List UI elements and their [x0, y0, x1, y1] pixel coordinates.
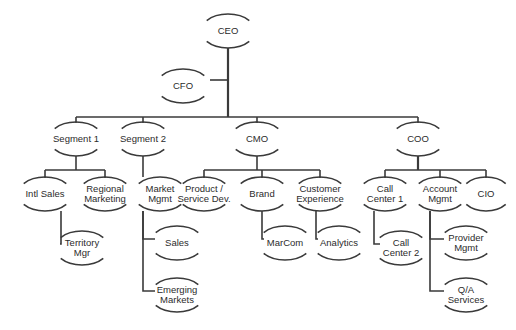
node-ceo[interactable]: CEO [207, 14, 250, 48]
node-label-intlsales: Intl Sales [25, 188, 64, 199]
node-label-line: CEO [218, 25, 239, 36]
node-arc-bottom [156, 253, 199, 260]
node-arc-top [318, 226, 361, 233]
node-label-cmo: CMO [246, 133, 268, 144]
node-callctr1[interactable]: CallCenter 1 [364, 177, 407, 211]
node-label-line: MarCom [267, 237, 304, 248]
node-label-segment1: Segment 1 [53, 133, 99, 144]
node-segment2[interactable]: Segment 2 [120, 122, 166, 156]
node-arc-bottom [445, 305, 488, 312]
node-label-callctr1: CallCenter 1 [367, 182, 403, 204]
node-qaservices[interactable]: Q/AServices [445, 278, 488, 312]
node-arc-bottom [156, 305, 199, 312]
node-label-qaservices: Q/AServices [448, 283, 485, 305]
node-label-line: Market [145, 182, 174, 193]
node-label-line: Sales [165, 237, 189, 248]
elbow-marcom [262, 211, 264, 239]
node-arc-bottom [207, 41, 250, 48]
node-arc-bottom [61, 258, 104, 265]
node-arc-bottom [162, 96, 205, 103]
node-label-segment2: Segment 2 [120, 133, 166, 144]
node-label-cio: CIO [478, 188, 495, 199]
node-label-line: Services [448, 294, 485, 305]
node-arc-top [264, 226, 307, 233]
node-label-line: CMO [246, 133, 268, 144]
bus-ceo [76, 48, 418, 117]
node-label-line: Customer [299, 182, 340, 193]
elbow-callctr2 [374, 211, 380, 244]
node-label-line: Brand [249, 188, 274, 199]
node-label-line: Mgmt [454, 242, 478, 253]
node-label-line: Q/A [458, 283, 475, 294]
node-label-line: Mgmt [428, 193, 452, 204]
node-label-coo: COO [407, 133, 429, 144]
node-label-analytics: Analytics [320, 237, 358, 248]
bus-segment1 [45, 156, 105, 170]
bus-cmo [204, 156, 320, 170]
node-label-line: Emerging [157, 283, 198, 294]
node-emerging[interactable]: EmergingMarkets [156, 278, 199, 312]
node-label-line: Regional [86, 182, 124, 193]
node-arc-bottom [419, 204, 462, 211]
node-arc-bottom [236, 149, 279, 156]
node-sales[interactable]: Sales [156, 226, 199, 260]
node-analytics[interactable]: Analytics [318, 226, 361, 260]
node-label-line: Mgmt [148, 193, 172, 204]
elbow-sales [143, 211, 155, 239]
node-arc-bottom [264, 253, 307, 260]
elbow-emerging [143, 211, 155, 291]
node-label-line: Intl Sales [25, 188, 64, 199]
node-brand[interactable]: Brand [241, 177, 284, 211]
node-intlsales[interactable]: Intl Sales [24, 177, 67, 211]
node-label-line: Markets [160, 294, 194, 305]
node-acctmgmt[interactable]: AccountMgmt [419, 177, 462, 211]
node-coo[interactable]: COO [397, 122, 440, 156]
node-label-line: Product / [185, 182, 223, 193]
node-label-line: Account [423, 182, 458, 193]
node-marketmgmt[interactable]: MarketMgmt [139, 177, 182, 211]
node-callctr2[interactable]: CallCenter 2 [380, 231, 423, 265]
node-label-line: CIO [478, 188, 495, 199]
node-cfo[interactable]: CFO [162, 69, 205, 103]
node-prodserv[interactable]: Product /Service Dev. [177, 177, 230, 211]
node-arc-bottom [84, 204, 127, 211]
node-label-line: Mgr [74, 247, 90, 258]
node-arc-bottom [299, 204, 342, 211]
node-arc-bottom [24, 204, 67, 211]
node-label-custexp: CustomerExperience [296, 182, 344, 204]
node-label-line: Analytics [320, 237, 358, 248]
node-layer: CEOCFOSegment 1Segment 2CMOCOOIntl Sales… [24, 14, 506, 312]
node-arc-bottom [122, 149, 165, 156]
org-chart-canvas: CEOCFOSegment 1Segment 2CMOCOOIntl Sales… [0, 0, 516, 330]
node-label-marcom: MarCom [267, 237, 304, 248]
node-label-cfo: CFO [173, 80, 193, 91]
node-label-callctr2: CallCenter 2 [383, 236, 419, 258]
node-label-line: Provider [448, 231, 483, 242]
node-label-acctmgmt: AccountMgmt [423, 182, 458, 204]
node-label-prodserv: Product /Service Dev. [177, 182, 230, 204]
node-label-emerging: EmergingMarkets [157, 283, 198, 305]
node-label-line: COO [407, 133, 429, 144]
node-territory[interactable]: TerritoryMgr [61, 231, 104, 265]
node-label-providermgmt: ProviderMgmt [448, 231, 483, 253]
node-label-ceo: CEO [218, 25, 239, 36]
node-label-line: Segment 2 [120, 133, 166, 144]
node-cmo[interactable]: CMO [236, 122, 279, 156]
node-providermgmt[interactable]: ProviderMgmt [445, 226, 488, 260]
node-regmkt[interactable]: RegionalMarketing [84, 177, 127, 211]
node-label-line: Marketing [84, 193, 126, 204]
node-segment1[interactable]: Segment 1 [53, 122, 99, 156]
node-arc-bottom [397, 149, 440, 156]
org-chart-svg: CEOCFOSegment 1Segment 2CMOCOOIntl Sales… [0, 0, 516, 330]
node-custexp[interactable]: CustomerExperience [296, 177, 344, 211]
node-label-marketmgmt: MarketMgmt [145, 182, 174, 204]
node-label-brand: Brand [249, 188, 274, 199]
node-arc-bottom [55, 149, 98, 156]
node-label-line: Service Dev. [177, 193, 230, 204]
node-label-line: Call [393, 236, 409, 247]
node-arc-top [156, 226, 199, 233]
node-label-line: Center 1 [367, 193, 403, 204]
node-cio[interactable]: CIO [466, 177, 505, 211]
node-marcom[interactable]: MarCom [264, 226, 307, 260]
node-arc-top [162, 69, 205, 76]
